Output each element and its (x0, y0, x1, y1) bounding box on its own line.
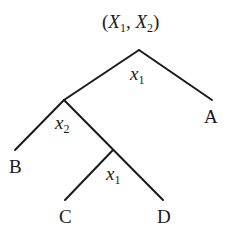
separator: , (126, 11, 136, 32)
tree-diagram: (X1, X2) x1 x2 x1 A B C D (0, 0, 233, 234)
leaf-D: D (157, 207, 171, 226)
edge-root-A (139, 50, 212, 100)
leaf-A: A (204, 107, 218, 126)
var-X1: X (108, 11, 120, 32)
paren-close: ) (153, 11, 159, 32)
var-X2: X (135, 11, 147, 32)
leaf-C: C (59, 207, 72, 226)
edge-root-n2 (64, 50, 139, 100)
root-label: (X1, X2) (102, 12, 159, 34)
tree-edges (0, 0, 233, 234)
n3-split-label: x1 (106, 164, 120, 186)
split-sub: 2 (63, 122, 69, 136)
split-sub: 1 (138, 73, 144, 87)
n2-split-label: x2 (55, 113, 69, 135)
leaf-B: B (9, 157, 22, 176)
split-sub: 1 (114, 173, 120, 187)
root-split-label: x1 (130, 64, 144, 86)
